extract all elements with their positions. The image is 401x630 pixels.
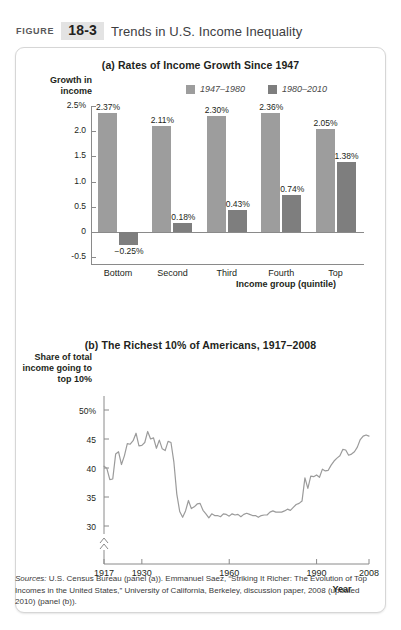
figure-number-badge: 18-3 [61,22,104,40]
axis-break-icon [100,538,108,549]
sources-prefix: Sources: [15,574,47,583]
figure-header: FIGURE 18-3 Trends in U.S. Income Inequa… [16,22,302,40]
figure-word: FIGURE [16,26,54,36]
y-tick-label: 50% [79,406,96,416]
sources-text: U.S. Census Bureau (panel (a)). Emmanuel… [15,574,367,606]
figure-title: Trends in U.S. Income Inequality [111,24,302,39]
panel-b-data-line [104,431,369,517]
figure-page: FIGURE 18-3 Trends in U.S. Income Inequa… [0,0,401,630]
y-tick-label: 45 [87,435,97,445]
sources-note: Sources: U.S. Census Bureau (panel (a)).… [15,573,370,608]
y-tick-label: 35 [87,493,97,503]
y-tick-label: 40 [87,464,97,474]
panel-b-line-chart: 50%4540353019171930196019902008 [16,48,387,614]
y-tick-label: 30 [87,522,97,532]
figure-card: (a) Rates of Income Growth Since 1947 Gr… [15,47,386,613]
